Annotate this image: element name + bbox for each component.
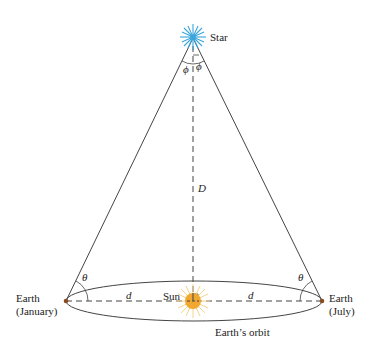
earth-july-label-line1: Earth: [329, 292, 353, 304]
earth-july-dot: [320, 299, 325, 304]
earth-january-label-line2: (January): [16, 305, 58, 317]
sightline-july: [193, 38, 322, 301]
sightline-january: [66, 38, 193, 301]
distance-D-label: D: [198, 182, 206, 194]
star-icon: [180, 24, 206, 50]
earth-july-label-line2: (July): [329, 305, 355, 317]
theta-right-label: θ: [298, 271, 303, 283]
distance-d-right-label: d: [248, 289, 254, 301]
phi-right-label: ϕ: [196, 60, 202, 72]
phi-left-label: ϕ: [183, 63, 189, 75]
parallax-diagram: [0, 0, 374, 355]
sun-icon: [176, 284, 210, 318]
earth-january-dot: [64, 299, 69, 304]
sun-label: Sun: [163, 290, 180, 302]
theta-left-label: θ: [82, 271, 87, 283]
earth-january-label-line1: Earth: [16, 292, 40, 304]
orbit-label: Earth’s orbit: [215, 326, 270, 338]
star-label: Star: [210, 31, 228, 43]
distance-d-left-label: d: [126, 289, 132, 301]
